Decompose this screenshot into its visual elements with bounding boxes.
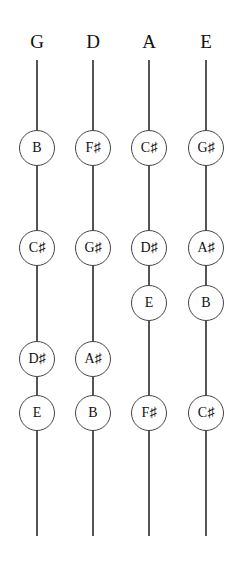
note-circle: E [131, 285, 167, 321]
note-circle: A♯ [188, 230, 224, 266]
string-label-g: G [22, 31, 52, 53]
note-circle: C♯ [19, 230, 55, 266]
note-circle: F♯ [131, 395, 167, 431]
string-label-d: D [78, 31, 108, 53]
string-label-a: A [134, 31, 164, 53]
note-circle: G♯ [75, 230, 111, 266]
string-label-e: E [191, 31, 221, 53]
note-circle: C♯ [188, 395, 224, 431]
note-circle: D♯ [131, 230, 167, 266]
note-circle: B [188, 285, 224, 321]
note-circle: A♯ [75, 341, 111, 377]
note-circle: F♯ [75, 130, 111, 166]
note-circle: B [19, 130, 55, 166]
note-circle: C♯ [131, 130, 167, 166]
note-circle: G♯ [188, 130, 224, 166]
note-circle: D♯ [19, 341, 55, 377]
note-circle: E [19, 395, 55, 431]
note-circle: B [75, 395, 111, 431]
